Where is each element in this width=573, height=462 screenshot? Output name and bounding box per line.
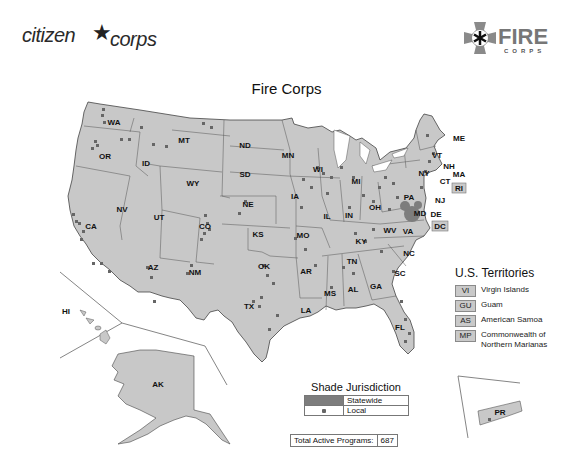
territory-code: GU <box>455 300 476 312</box>
state-label-va: VA <box>403 227 414 236</box>
total-active-programs: Total Active Programs: 687 <box>290 434 398 447</box>
local-dot-swatch <box>305 406 344 416</box>
state-label-ms: MS <box>324 289 337 298</box>
state-label-sc: SC <box>394 269 405 278</box>
state-label-la: LA <box>301 306 312 315</box>
legend-label: Statewide <box>344 396 409 406</box>
state-label-pa: PA <box>404 193 415 202</box>
territory-item: MP Commonwealth of Northern Marianas <box>455 330 573 350</box>
state-label-ma: MA <box>453 170 466 179</box>
territory-name: Guam <box>481 300 503 310</box>
state-label-wa: WA <box>108 118 121 127</box>
legend-row-local: Local <box>305 406 409 416</box>
state-label-wv: WV <box>384 226 398 235</box>
state-label-dc-box: DC <box>432 221 448 231</box>
state-label-oh: OH <box>369 203 381 212</box>
territory-item: GU Guam <box>455 300 573 312</box>
territory-name: American Samoa <box>481 315 542 325</box>
state-label-ga: GA <box>370 282 382 291</box>
state-label-mo: MO <box>297 231 310 240</box>
state-label-hi: HI <box>62 307 70 316</box>
us-territories-panel: U.S. Territories VI Virgin Islands GU Gu… <box>455 266 573 353</box>
total-label: Total Active Programs: <box>291 435 377 446</box>
state-label-in: IN <box>345 211 353 220</box>
state-label-ok: OK <box>258 262 270 271</box>
shade-jurisdiction-legend: Shade Jurisdiction Statewide Local <box>296 381 416 416</box>
state-label-md: MD <box>414 209 427 218</box>
state-label-mi: MI <box>352 177 361 186</box>
territory-code: VI <box>455 285 476 297</box>
state-label-wy: WY <box>187 179 201 188</box>
state-label-al: AL <box>348 285 359 294</box>
state-label-dc: DC <box>434 222 446 231</box>
state-label-nc: NC <box>403 249 415 258</box>
state-label-nv: NV <box>116 205 128 214</box>
state-label-nj: NJ <box>435 196 445 205</box>
territory-name: Virgin Islands <box>481 285 529 295</box>
legend-label: Local <box>344 406 409 416</box>
state-label-sd: SD <box>239 170 250 179</box>
state-label-ca: CA <box>85 222 97 231</box>
state-label-ky: KY <box>355 237 367 246</box>
state-label-il: IL <box>323 212 330 221</box>
state-label-ut: UT <box>154 213 165 222</box>
territory-code: AS <box>455 315 476 327</box>
state-label-nm: NM <box>189 268 202 277</box>
dot-icon <box>322 409 326 413</box>
state-label-nd: ND <box>239 141 251 150</box>
state-label-de: DE <box>430 210 442 219</box>
legend-title: Shade Jurisdiction <box>296 381 416 393</box>
territory-code: MP <box>455 330 476 342</box>
territory-name: Commonwealth of Northern Marianas <box>481 330 561 350</box>
state-label-ne: NE <box>242 200 254 209</box>
state-label-ct: CT <box>440 177 451 186</box>
state-label-ks: KS <box>252 230 264 239</box>
state-label-ny: NY <box>418 169 430 178</box>
state-label-or: OR <box>99 152 111 161</box>
territory-item: VI Virgin Islands <box>455 285 573 297</box>
state-label-ak: AK <box>152 380 164 389</box>
legend-table: Statewide Local <box>304 395 409 416</box>
state-label-tn: TN <box>347 257 358 266</box>
state-label-wi: WI <box>313 165 323 174</box>
statewide-swatch <box>305 396 344 406</box>
state-label-pr: PR <box>494 408 505 417</box>
alaska <box>112 350 230 444</box>
state-label-ia: IA <box>291 192 299 201</box>
territory-item: AS American Samoa <box>455 315 573 327</box>
legend-row-statewide: Statewide <box>305 396 409 406</box>
state-label-co: CO <box>199 222 211 231</box>
state-label-ri: RI <box>455 184 463 193</box>
state-label-id: ID <box>142 159 150 168</box>
state-label-vt: VT <box>432 151 442 160</box>
territories-title: U.S. Territories <box>455 266 573 280</box>
state-label-fl: FL <box>395 323 405 332</box>
state-label-me: ME <box>453 134 466 143</box>
hawaii <box>80 310 110 344</box>
us-map: WA OR CA ID NV MT WY UT AZ CO NM ND SD N… <box>0 0 573 462</box>
state-label-mt: MT <box>178 136 190 145</box>
state-label-ri-box: RI <box>452 183 466 193</box>
state-label-ar: AR <box>300 267 312 276</box>
state-label-tx: TX <box>244 302 255 311</box>
state-label-mn: MN <box>282 151 295 160</box>
state-label-az: AZ <box>148 263 159 272</box>
total-value: 687 <box>377 435 397 446</box>
